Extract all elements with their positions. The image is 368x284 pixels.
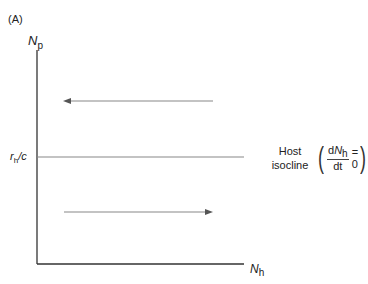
panel-label: (A)	[8, 13, 23, 25]
fraction-numerator: dNh	[327, 144, 349, 160]
left-arrow-head-icon	[63, 98, 71, 104]
y-axis-label: Np	[28, 33, 43, 51]
y-axis-label-main: N	[28, 33, 37, 48]
right-paren: )	[360, 143, 366, 173]
fraction-denominator: dt	[333, 160, 342, 172]
right-arrow-head-icon	[205, 209, 213, 215]
y-axis-label-sub: p	[37, 40, 43, 51]
numerator-sub: h	[342, 148, 348, 159]
numerator-n: N	[334, 144, 342, 156]
isocline-level-rest: /c	[18, 150, 27, 162]
isocline-equation: ( dNh dt = 0 )	[316, 143, 368, 173]
x-axis-label: Nh	[250, 262, 264, 278]
isocline-name: Host isocline	[267, 144, 313, 172]
left-paren: (	[318, 143, 324, 173]
x-axis-label-sub: h	[259, 267, 265, 278]
isocline-name-line2: isocline	[267, 158, 313, 172]
equation-rhs: = 0	[352, 146, 358, 170]
derivative-fraction: dNh dt	[327, 144, 349, 172]
isocline-level-label: rh/c	[10, 150, 27, 165]
isocline-name-line1: Host	[267, 144, 313, 158]
x-axis-label-main: N	[250, 262, 259, 276]
